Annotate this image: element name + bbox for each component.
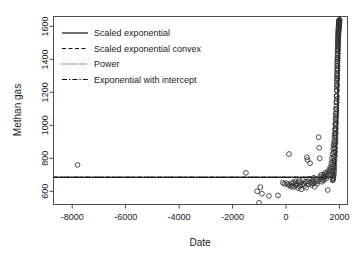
x-tick-label: -2000 [221, 212, 244, 222]
data-point [317, 145, 322, 150]
y-tick-label: 1600 [41, 16, 51, 36]
data-point [258, 185, 263, 190]
x-tick-label: -4000 [168, 212, 191, 222]
legend-label: Scaled exponential [94, 28, 170, 38]
x-tick-label: -8000 [61, 212, 84, 222]
x-axis-tick-labels: -8000-6000-4000-200002000 [61, 212, 350, 222]
data-point [244, 170, 249, 175]
x-tick-label: -6000 [114, 212, 137, 222]
y-tick-label: 1200 [41, 82, 51, 102]
scatter-plot: 6008001000120014001600 -8000-6000-4000-2… [0, 0, 364, 259]
data-point [308, 161, 313, 166]
legend: Scaled exponentialScaled exponential con… [62, 28, 202, 85]
y-axis-title: Methan gas [12, 84, 23, 136]
x-tick-label: 0 [284, 212, 289, 222]
fit-curve-dotted [54, 0, 348, 177]
data-point [255, 189, 260, 194]
fit-curve-solid [54, 0, 348, 177]
y-tick-label: 600 [41, 184, 51, 199]
legend-label: Exponential with intercept [94, 75, 197, 85]
fit-curves-group [54, 0, 348, 177]
data-point [325, 188, 330, 193]
y-tick-label: 1000 [41, 115, 51, 135]
legend-label: Power [94, 59, 120, 69]
data-point [316, 135, 321, 140]
legend-label: Scaled exponential convex [94, 44, 202, 54]
fit-curve-dashdot [54, 0, 348, 177]
data-point [75, 163, 80, 168]
data-point [260, 191, 265, 196]
data-point [276, 193, 281, 198]
y-axis-tick-labels: 6008001000120014001600 [41, 16, 51, 198]
y-tick-label: 800 [41, 151, 51, 166]
x-axis-ticks [72, 205, 339, 209]
data-point [267, 194, 272, 199]
data-point [317, 156, 322, 161]
chart-figure: 6008001000120014001600 -8000-6000-4000-2… [0, 0, 364, 259]
data-point [287, 152, 292, 157]
fit-curve-dashed [54, 0, 348, 177]
x-axis-title: Date [189, 237, 211, 248]
x-tick-label: 2000 [329, 212, 349, 222]
y-tick-label: 1400 [41, 49, 51, 69]
